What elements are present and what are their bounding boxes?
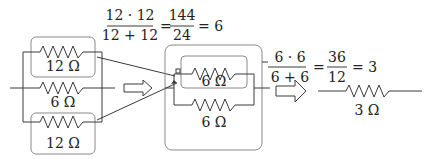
transform-arrow-1 bbox=[124, 80, 152, 96]
label-6ohm-middle: 6 Ω bbox=[51, 94, 76, 110]
formula1-result-denominator: 24 bbox=[173, 27, 191, 43]
formula2-denominator: 6 + 6 bbox=[271, 69, 310, 85]
label-12ohm-top: 12 Ω bbox=[46, 58, 80, 74]
resistor-symbol-bottom bbox=[40, 116, 83, 128]
resistor-symbol-middle bbox=[40, 82, 83, 94]
formula2-result-numerator: 36 bbox=[328, 49, 346, 65]
formula-step2: 6 · 6 6 + 6 = 36 12 = 3 bbox=[268, 49, 377, 85]
pointer-line-top bbox=[97, 57, 175, 76]
label-3ohm: 3 Ω bbox=[355, 102, 380, 118]
resistor-symbol-3ohm bbox=[346, 85, 389, 97]
step1-circuit: 12 Ω 6 Ω 12 Ω bbox=[10, 37, 177, 154]
circuit-diagram: 12 Ω 6 Ω 12 Ω 12 · 12 12 + 12 = 144 24 =… bbox=[0, 0, 432, 159]
formula1-result: = 6 bbox=[198, 18, 223, 34]
formula2-numerator: 6 · 6 bbox=[274, 49, 305, 65]
formula1-denominator: 12 + 12 bbox=[102, 27, 158, 43]
formula2-result-denominator: 12 bbox=[328, 69, 346, 85]
formula1-numerator: 12 · 12 bbox=[106, 7, 155, 23]
resistor-symbol-top bbox=[40, 46, 83, 58]
step2-circuit: 6 Ω 6 Ω bbox=[165, 45, 270, 150]
label-6ohm-step2-top: 6 Ω bbox=[202, 73, 227, 89]
formula1-result-numerator: 144 bbox=[169, 7, 196, 23]
formula2-equals: = bbox=[313, 59, 325, 75]
formula2-result: = 3 bbox=[352, 59, 377, 75]
formula-step1: 12 · 12 12 + 12 = 144 24 = 6 bbox=[102, 7, 223, 43]
label-12ohm-bottom: 12 Ω bbox=[46, 135, 80, 151]
label-6ohm-step2-bottom: 6 Ω bbox=[202, 114, 227, 130]
step3-circuit: 3 Ω bbox=[318, 85, 422, 118]
resistor-symbol-step2-bottom bbox=[192, 99, 235, 111]
